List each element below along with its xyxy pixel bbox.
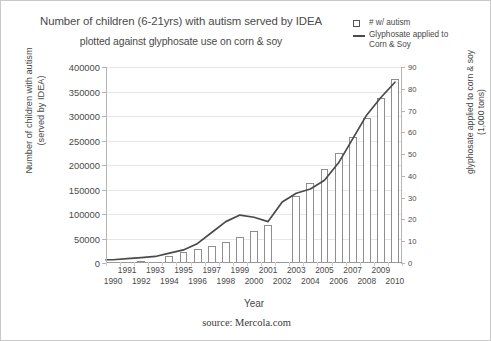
plot-area: 0500001000001500002000002500003000003500… bbox=[106, 67, 402, 263]
y-tick-label-left: 200000 bbox=[69, 160, 100, 171]
tick-mark-left bbox=[102, 214, 106, 215]
x-tick-label: 1996 bbox=[188, 276, 207, 286]
y-tick-label-left: 150000 bbox=[69, 184, 100, 195]
x-tick-label: 1993 bbox=[146, 265, 165, 275]
axis-right-spine bbox=[401, 67, 402, 263]
tick-mark-right bbox=[401, 111, 405, 112]
y-tick-label-right: 70 bbox=[408, 106, 416, 115]
y-tick-label-left: 400000 bbox=[69, 62, 100, 73]
x-tick-label: 1999 bbox=[231, 265, 250, 275]
source-attribution: source: Mercola.com bbox=[1, 317, 491, 328]
x-tick-label: 2000 bbox=[245, 276, 264, 286]
x-tick-label: 2010 bbox=[386, 276, 405, 286]
x-tick-label: 1990 bbox=[104, 276, 123, 286]
y-tick-label-left: 350000 bbox=[69, 86, 100, 97]
tick-mark-right bbox=[401, 154, 405, 155]
y-tick-label-right: 40 bbox=[408, 171, 416, 180]
y-tick-label-left: 0 bbox=[95, 258, 100, 269]
y-tick-label-right: 80 bbox=[408, 84, 416, 93]
chart-figure: Number of children (6-21yrs) with autism… bbox=[0, 0, 491, 341]
y-axis-right-title: glyphosate applied to corn & soy(1,000 t… bbox=[465, 17, 487, 207]
x-tick-label: 2009 bbox=[372, 265, 391, 275]
tick-mark-left bbox=[102, 141, 106, 142]
x-axis-title: Year bbox=[106, 298, 402, 309]
y-tick-label-right: 10 bbox=[408, 237, 416, 246]
y-tick-label-right: 20 bbox=[408, 215, 416, 224]
y-tick-label-left: 50000 bbox=[74, 233, 100, 244]
x-tick-label: 2007 bbox=[343, 265, 362, 275]
y-axis-left-title: Number of children with autism(served by… bbox=[24, 16, 47, 206]
x-tick-label: 2001 bbox=[259, 265, 278, 275]
x-tick-label: 2008 bbox=[357, 276, 376, 286]
tick-mark-left bbox=[102, 190, 106, 191]
tick-mark-right bbox=[401, 198, 405, 199]
x-tick-label: 1994 bbox=[160, 276, 179, 286]
chart-title-line-2: plotted against glyphosate use on corn &… bbox=[11, 36, 351, 47]
y-tick-label-left: 250000 bbox=[69, 135, 100, 146]
tick-mark-right bbox=[401, 89, 405, 90]
x-axis-tick-labels: 1990199119921993199419951996199719981999… bbox=[106, 265, 402, 295]
line-path bbox=[106, 82, 395, 259]
tick-mark-left bbox=[102, 239, 106, 240]
line-marker-icon bbox=[353, 30, 369, 37]
y-tick-label-right: 0 bbox=[408, 259, 412, 268]
x-tick-label: 2006 bbox=[329, 276, 348, 286]
axis-bottom-spine bbox=[106, 262, 402, 263]
x-tick-label: 2003 bbox=[287, 265, 306, 275]
axis-left-spine bbox=[106, 67, 107, 263]
tick-mark-right bbox=[401, 219, 405, 220]
x-tick-label: 1992 bbox=[132, 276, 151, 286]
tick-mark-left bbox=[102, 67, 106, 68]
legend-item-glyphosate-label: Glyphosate applied toCorn & Soy bbox=[369, 30, 448, 50]
y-tick-label-left: 100000 bbox=[69, 209, 100, 220]
line-series bbox=[106, 67, 402, 263]
y-tick-label-left: 300000 bbox=[69, 111, 100, 122]
x-tick-label: 1998 bbox=[216, 276, 235, 286]
x-tick-label: 2004 bbox=[301, 276, 320, 286]
tick-mark-x bbox=[402, 262, 403, 266]
x-tick-label: 1995 bbox=[174, 265, 193, 275]
tick-mark-left bbox=[102, 165, 106, 166]
tick-mark-left bbox=[102, 116, 106, 117]
tick-mark-left bbox=[102, 92, 106, 93]
x-tick-label: 1997 bbox=[202, 265, 221, 275]
y-tick-label-right: 50 bbox=[408, 150, 416, 159]
chart-title-line-1: Number of children (6-21yrs) with autism… bbox=[11, 15, 351, 27]
tick-mark-right bbox=[401, 176, 405, 177]
legend-item-autism-label: # w/ autism bbox=[369, 18, 410, 28]
x-tick-label: 1991 bbox=[118, 265, 137, 275]
x-tick-label: 2002 bbox=[273, 276, 292, 286]
y-tick-label-right: 90 bbox=[408, 63, 416, 72]
y-tick-label-right: 60 bbox=[408, 128, 416, 137]
open-square-icon bbox=[353, 18, 369, 27]
tick-mark-right bbox=[401, 67, 405, 68]
tick-mark-right bbox=[401, 241, 405, 242]
tick-mark-right bbox=[401, 132, 405, 133]
x-tick-label: 2005 bbox=[315, 265, 334, 275]
y-tick-label-right: 30 bbox=[408, 193, 416, 202]
